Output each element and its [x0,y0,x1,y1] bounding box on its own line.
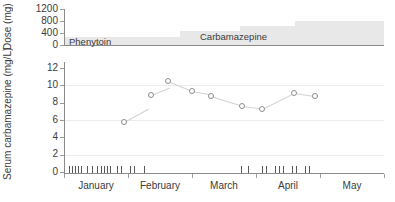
phenytoin-label: Phenytoin [69,36,111,47]
x-tickmark [64,174,65,178]
event-tick [292,166,293,173]
event-tick [305,166,306,173]
event-tick [241,166,242,173]
serum-ytick-0: 0 [30,166,58,177]
serum-ytick-10: 10 [30,79,58,90]
serum-data-point[interactable] [259,106,265,112]
serum-gridline-6 [64,120,384,121]
x-tickmark [384,174,385,178]
event-tick [248,166,249,173]
serum-data-point[interactable] [121,119,127,125]
x-label-january: January [66,180,126,191]
event-tick [134,166,135,173]
serum-gridline-2 [64,155,384,156]
event-tick [69,166,70,173]
serum-data-point[interactable] [239,103,245,109]
event-tick [97,166,98,173]
serum-data-point[interactable] [165,78,171,84]
event-tick [262,166,263,173]
event-tick [78,166,79,173]
x-label-may: May [322,180,382,191]
x-tickmark [192,174,193,178]
serum-ytick-12: 12 [30,62,58,73]
serum-gridline-10 [64,85,384,86]
serum-ytick-2: 2 [30,148,58,159]
event-tick [296,166,297,173]
serum-axis-title-text: Serum carbamazepine (mg/L) [2,48,13,180]
x-tickmark [320,174,321,178]
event-tick [121,166,122,173]
x-tickmark [256,174,257,178]
x-tickmark [128,174,129,178]
event-tick [130,166,131,173]
serum-ytick-6: 6 [30,114,58,125]
serum-ytick-4: 4 [30,131,58,142]
event-tick [101,166,102,173]
x-label-april: April [258,180,318,191]
event-tick [110,166,111,173]
serum-data-point[interactable] [291,90,297,96]
serum-data-point[interactable] [312,93,318,99]
x-axis-line [64,173,384,174]
serum-axis-title: Serum carbamazepine (mg/L) [2,60,13,180]
event-tick [75,166,76,173]
dose-axis-title: Dose (mg) [2,2,13,52]
event-tick [283,166,284,173]
serum-ytick-8: 8 [30,96,58,107]
event-tick [144,166,145,173]
event-tick [81,166,82,173]
serum-data-point[interactable] [148,92,154,98]
x-label-march: March [194,180,254,191]
dose-ytick-400: 400 [28,27,58,38]
event-tick [279,166,280,173]
serum-y-axis-line [64,62,65,173]
event-tick [117,166,118,173]
serum-line-segment [211,96,242,107]
event-tick [87,166,88,173]
event-tick [275,166,276,173]
dose-bar-carbamazepine-step4 [295,21,384,46]
event-tick [72,166,73,173]
x-label-february: February [130,180,190,191]
dose-baseline [64,45,384,46]
event-tick [309,166,310,173]
dose-ytick-800: 800 [28,15,58,26]
event-tick [104,166,105,173]
serum-data-point[interactable] [208,93,214,99]
serum-data-point[interactable] [189,88,195,94]
event-tick [92,166,93,173]
event-tick [266,166,267,173]
dose-ytick-0: 0 [28,39,58,50]
serum-line-segment [262,93,294,110]
chart-root: Dose (mg) 1200 800 400 0 Phenytoin Carba… [0,0,395,202]
carbamazepine-label: Carbamazepine [200,31,267,42]
dose-ytick-1200: 1200 [28,3,58,14]
event-tick [107,166,108,173]
